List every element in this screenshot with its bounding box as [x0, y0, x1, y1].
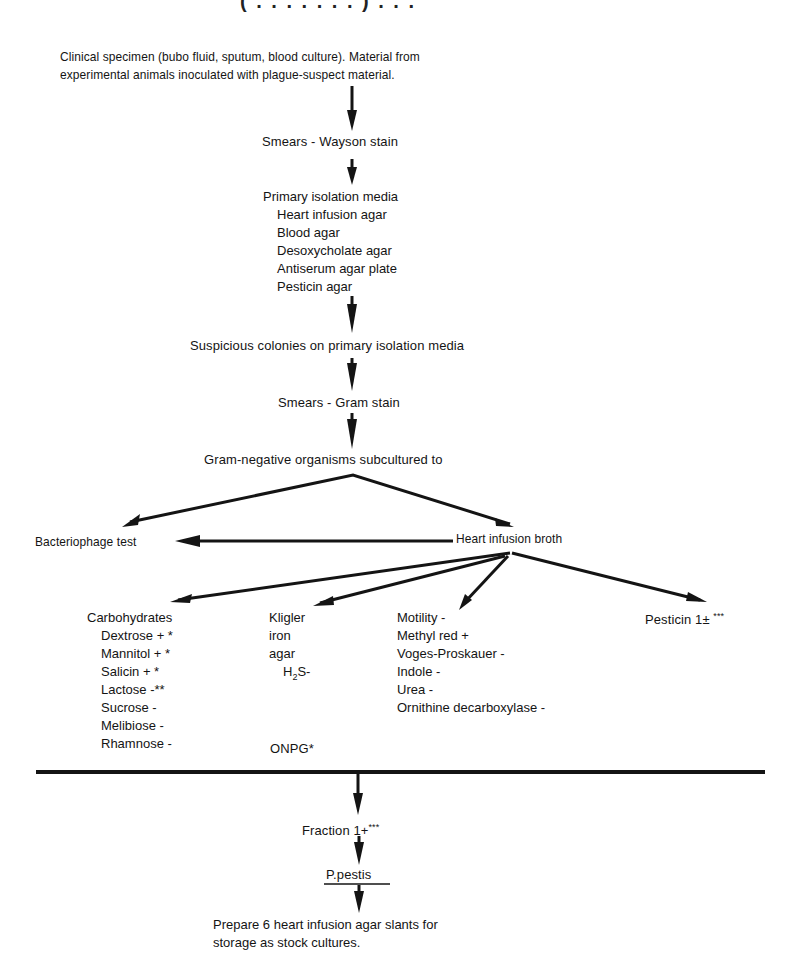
- carbohydrates-column: Carbohydrates Dextrose + * Mannitol + * …: [87, 609, 173, 753]
- flowchart-arrows: [0, 0, 796, 969]
- heart-infusion-broth-node: Heart infusion broth: [456, 530, 562, 548]
- arrow-broth-to-bacteriophage: [175, 535, 453, 547]
- media-item: Desoxycholate agar: [263, 242, 398, 260]
- carbohydrate-item: Melibiose -: [87, 717, 173, 735]
- biochem-item: Motility -: [397, 609, 545, 627]
- carbohydrate-item: Salicin + *: [87, 663, 173, 681]
- gram-stain-node: Smears - Gram stain: [278, 394, 400, 412]
- prepare-line-1: Prepare 6 heart infusion agar slants for: [213, 916, 438, 934]
- fraction-1-node: Fraction 1+***: [302, 818, 379, 840]
- primary-isolation-node: Primary isolation media Heart infusion a…: [263, 188, 398, 296]
- kligler-line: agar: [269, 645, 310, 663]
- vertical-arrow-organism-to-prepare: [354, 885, 364, 913]
- vertical-arrow-primary-to-suspicious: [347, 296, 357, 333]
- biochemical-column: Motility - Methyl red + Voges-Proskauer …: [397, 609, 545, 717]
- pesticin-result: Pesticin 1± ***: [645, 607, 724, 629]
- h2s-result: H2S-: [269, 663, 310, 686]
- organism-name: P.pestis: [326, 866, 371, 884]
- carbohydrate-item: Rhamnose -: [87, 735, 173, 753]
- vertical-arrow-specimen-to-wayson: [347, 86, 357, 131]
- branch-arrows-gramneg: [130, 475, 510, 524]
- prepare-line-2: storage as stock cultures.: [213, 934, 438, 952]
- gram-negative-node: Gram-negative organisms subcultured to: [204, 451, 443, 469]
- branch-arrows-broth: [178, 553, 700, 603]
- media-item: Heart infusion agar: [263, 206, 398, 224]
- kligler-column: Kligler iron agar H2S-: [269, 609, 310, 686]
- onpg-result: ONPG*: [270, 740, 314, 758]
- biochem-item: Urea -: [397, 681, 545, 699]
- wayson-stain-node: Smears - Wayson stain: [262, 133, 398, 151]
- media-item: Antiserum agar plate: [263, 260, 398, 278]
- vertical-arrow-suspicious-to-gram: [347, 358, 357, 391]
- media-item: Blood agar: [263, 224, 398, 242]
- carbohydrates-title: Carbohydrates: [87, 609, 173, 627]
- specimen-line-2: experimental animals inoculated with pla…: [60, 66, 420, 84]
- biochem-item: Ornithine decarboxylase -: [397, 699, 545, 717]
- specimen-line-1: Clinical specimen (bubo fluid, sputum, b…: [60, 48, 420, 66]
- carbohydrate-item: Sucrose -: [87, 699, 173, 717]
- prepare-stock-node: Prepare 6 heart infusion agar slants for…: [213, 916, 438, 952]
- title-fragment: ( . . . . . . . ) . . .: [240, 0, 416, 13]
- biochem-item: Indole -: [397, 663, 545, 681]
- vertical-arrow-divider-to-fraction: [353, 772, 363, 815]
- carbohydrate-item: Lactose -**: [87, 681, 173, 699]
- suspicious-colonies-node: Suspicious colonies on primary isolation…: [190, 337, 464, 355]
- kligler-line: Kligler: [269, 609, 310, 627]
- start-node: Clinical specimen (bubo fluid, sputum, b…: [60, 48, 420, 84]
- kligler-line: iron: [269, 627, 310, 645]
- vertical-arrow-gram-to-gramneg: [347, 413, 357, 449]
- primary-isolation-title: Primary isolation media: [263, 188, 398, 206]
- media-item: Pesticin agar: [263, 278, 398, 296]
- biochem-item: Voges-Proskauer -: [397, 645, 545, 663]
- carbohydrate-item: Dextrose + *: [87, 627, 173, 645]
- bacteriophage-test-node: Bacteriophage test: [35, 533, 136, 551]
- biochem-item: Methyl red +: [397, 627, 545, 645]
- vertical-arrow-wayson-to-primary: [347, 159, 357, 185]
- carbohydrate-item: Mannitol + *: [87, 645, 173, 663]
- vertical-arrow-fraction-to-organism: [354, 836, 364, 865]
